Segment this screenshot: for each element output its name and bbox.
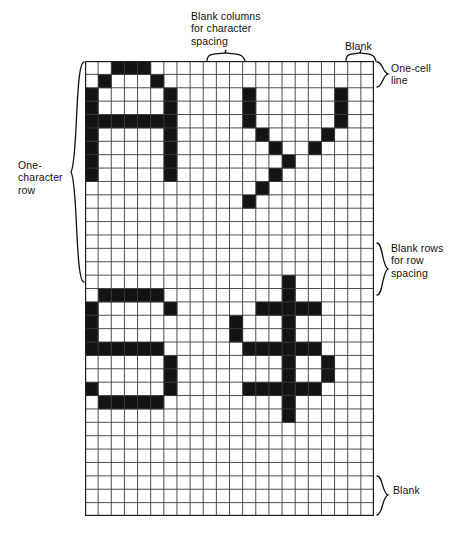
grid-cell-filled xyxy=(164,101,178,115)
grid-cell-filled xyxy=(335,88,349,102)
grid-cell-filled xyxy=(151,115,165,129)
grid-cell-filled xyxy=(256,302,270,316)
grid-cell-filled xyxy=(111,342,125,356)
grid-cell-filled xyxy=(282,289,296,303)
grid-cell-filled xyxy=(282,155,296,169)
label-blank-rows: Blank rows for row spacing xyxy=(391,242,463,279)
grid-cell-filled xyxy=(124,115,138,129)
grid-cell-filled xyxy=(269,302,283,316)
brace-blank-bottom xyxy=(376,475,390,516)
grid-cell-filled xyxy=(243,115,257,129)
grid-cell-filled xyxy=(243,88,257,102)
grid-cell-filled xyxy=(164,115,178,129)
grid-cell-filled xyxy=(98,74,112,88)
grid-cell-filled xyxy=(151,396,165,410)
grid-cell-filled xyxy=(282,275,296,289)
grid-cell-filled xyxy=(138,342,152,356)
grid-cell-filled xyxy=(138,61,152,75)
grid-cell-filled xyxy=(164,155,178,169)
grid-cell-filled xyxy=(85,88,99,102)
grid-cell-filled xyxy=(282,382,296,396)
grid-cell-filled xyxy=(164,302,178,316)
grid-cell-filled xyxy=(164,88,178,102)
grid-cell-filled xyxy=(124,396,138,410)
grid-cell-filled xyxy=(335,115,349,129)
grid-cell-filled xyxy=(85,302,99,316)
grid-cell-filled xyxy=(85,168,99,182)
grid-cell-filled xyxy=(256,128,270,142)
grid-cell-filled xyxy=(256,342,270,356)
grid-cell-filled xyxy=(164,369,178,383)
grid-cell-filled xyxy=(124,289,138,303)
grid-cell-filled xyxy=(308,342,322,356)
grid-cell-filled xyxy=(164,355,178,369)
label-blank-columns: Blank columns for character spacing xyxy=(191,10,291,47)
grid-cell-filled xyxy=(282,369,296,383)
grid-cell-filled xyxy=(164,141,178,155)
brace-blank-rows xyxy=(376,242,390,296)
grid-cell-filled xyxy=(85,315,99,329)
grid-cell-filled xyxy=(282,409,296,423)
grid-cell-filled xyxy=(138,396,152,410)
grid-cell-filled xyxy=(151,342,165,356)
grid-cell-filled xyxy=(85,329,99,343)
grid-cell-filled xyxy=(138,289,152,303)
brace-blank-columns xyxy=(206,50,246,62)
grid-cell-filled xyxy=(85,128,99,142)
grid-cell-filled xyxy=(111,289,125,303)
grid-cell-filled xyxy=(335,101,349,115)
grid-cell-filled xyxy=(308,382,322,396)
grid-cell-filled xyxy=(85,342,99,356)
grid-cell-filled xyxy=(164,168,178,182)
grid-cell-filled xyxy=(151,74,165,88)
brace-one-cell-line xyxy=(376,61,390,88)
grid-cell-filled xyxy=(282,355,296,369)
grid-cell-filled xyxy=(85,155,99,169)
grid-cell-filled xyxy=(308,141,322,155)
grid-cell-filled xyxy=(85,101,99,115)
grid-cell-filled xyxy=(98,289,112,303)
grid-cell-filled xyxy=(230,329,244,343)
grid-cell-filled xyxy=(243,382,257,396)
grid-cell-filled xyxy=(295,382,309,396)
grid-cell-filled xyxy=(85,115,99,129)
grid-cell-filled xyxy=(321,128,335,142)
grid-cell-filled xyxy=(243,101,257,115)
grid-cell-filled xyxy=(269,168,283,182)
grid-cell-filled xyxy=(269,382,283,396)
grid-cell-filled xyxy=(164,128,178,142)
grid-cell-filled xyxy=(124,342,138,356)
grid-cell-filled xyxy=(269,342,283,356)
label-blank-bottom: Blank xyxy=(393,484,453,496)
grid-cell-filled xyxy=(256,181,270,195)
grid-cell-filled xyxy=(256,382,270,396)
label-one-character-row: One- character row xyxy=(18,159,80,196)
grid-cell-filled xyxy=(308,302,322,316)
grid-cell-filled xyxy=(282,329,296,343)
grid-cell-filled xyxy=(243,195,257,209)
bitmap-grid-svg xyxy=(85,61,374,516)
bitmap-grid xyxy=(85,61,374,516)
grid-cell-filled xyxy=(282,315,296,329)
grid-cell-filled xyxy=(85,141,99,155)
grid-cell-filled xyxy=(85,382,99,396)
grid-cell-filled xyxy=(282,302,296,316)
grid-cell-filled xyxy=(282,396,296,410)
grid-cell-filled xyxy=(243,342,257,356)
grid-cell-filled xyxy=(124,61,138,75)
grid-cell-filled xyxy=(151,289,165,303)
grid-cell-filled xyxy=(98,115,112,129)
grid-cell-filled xyxy=(295,302,309,316)
grid-cell-filled xyxy=(164,382,178,396)
grid-cell-filled xyxy=(269,141,283,155)
grid-cell-filled xyxy=(111,396,125,410)
grid-cell-filled xyxy=(321,369,335,383)
grid-cell-filled xyxy=(98,342,112,356)
grid-cell-filled xyxy=(321,355,335,369)
grid-cell-filled xyxy=(111,61,125,75)
grid-cell-filled xyxy=(98,396,112,410)
grid-cell-filled xyxy=(138,115,152,129)
grid-cell-filled xyxy=(282,342,296,356)
label-one-cell-line: One-cell line xyxy=(391,62,461,87)
grid-cell-filled xyxy=(111,115,125,129)
